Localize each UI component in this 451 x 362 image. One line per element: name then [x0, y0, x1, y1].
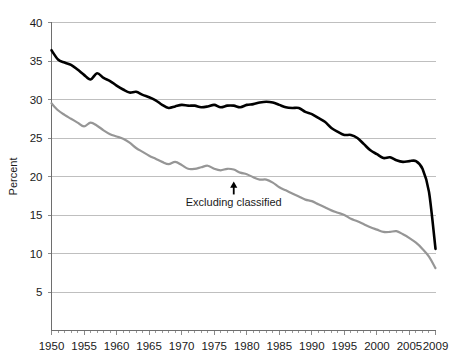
x-tick-label: 1965 [136, 340, 162, 352]
chart-container: 403530252015105 195019551960196519701975… [0, 0, 451, 362]
x-tick-label: 2005 [397, 340, 423, 352]
annotations-group: Excluding classified [186, 182, 282, 209]
x-tick-label: 1950 [39, 340, 65, 352]
y-tick-label: 15 [30, 209, 43, 221]
x-tick-label: 1995 [332, 340, 358, 352]
y-tick-label: 25 [30, 132, 43, 144]
y-tick-label: 35 [30, 55, 43, 67]
x-tick-label: 1975 [201, 340, 227, 352]
y-tick-label: 5 [36, 286, 42, 298]
y-axis-title: Percent [7, 158, 19, 196]
x-tick-labels-group: 1950195519601965197019751980198519901995… [39, 340, 449, 352]
x-tick-label: 1970 [169, 340, 195, 352]
gridlines-group [48, 23, 436, 293]
y-tick-label: 10 [30, 248, 43, 260]
x-tick-label: 1980 [234, 340, 260, 352]
annotation-label: Excluding classified [186, 196, 282, 208]
annotation-arrow-head [230, 182, 237, 188]
series-line [52, 103, 436, 268]
x-tick-label: 1990 [299, 340, 325, 352]
line-chart: 403530252015105 195019551960196519701975… [0, 0, 451, 362]
y-tick-label: 30 [30, 94, 43, 106]
x-tick-label: 2000 [364, 340, 390, 352]
x-tick-label: 1985 [266, 340, 292, 352]
y-tick-label: 40 [30, 17, 43, 29]
y-tick-labels-group: 403530252015105 [30, 17, 43, 299]
series-line [52, 50, 436, 249]
x-tick-label: 1960 [104, 340, 130, 352]
x-tick-label: 1955 [71, 340, 97, 352]
x-tick-label: 2009 [423, 340, 449, 352]
data-series-group [52, 50, 436, 268]
y-tick-label: 20 [30, 171, 43, 183]
